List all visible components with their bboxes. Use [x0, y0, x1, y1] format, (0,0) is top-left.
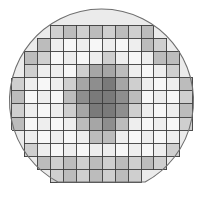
die-cell — [50, 38, 63, 51]
die-cell — [12, 91, 25, 104]
die-cell — [89, 117, 102, 130]
die-cell — [167, 104, 180, 117]
die-cell — [102, 64, 115, 77]
die-cell — [63, 143, 76, 156]
die-cell — [167, 64, 180, 77]
die-cell — [37, 51, 50, 64]
die-cell — [50, 104, 63, 117]
die-cell — [24, 51, 37, 64]
die-cell — [154, 51, 167, 64]
die-cell — [76, 64, 89, 77]
die-cell — [102, 157, 115, 170]
die-cell — [63, 91, 76, 104]
die-cell — [63, 78, 76, 91]
die-cell — [76, 130, 89, 143]
die-cell — [167, 117, 180, 130]
die-cell — [154, 117, 167, 130]
die-cell — [63, 38, 76, 51]
die-cell — [37, 130, 50, 143]
die-cell — [154, 78, 167, 91]
die-cell — [141, 157, 154, 170]
die-cell — [115, 104, 128, 117]
die-cell — [102, 130, 115, 143]
die-cell — [50, 157, 63, 170]
die-cell — [50, 117, 63, 130]
die-cell — [154, 91, 167, 104]
die-cell — [102, 170, 115, 183]
die-cell — [167, 130, 180, 143]
die-cell — [37, 117, 50, 130]
die-cell — [115, 91, 128, 104]
die-cell — [63, 130, 76, 143]
die-cell — [115, 38, 128, 51]
die-cell — [89, 91, 102, 104]
die-cell — [128, 91, 141, 104]
die-cell — [76, 157, 89, 170]
die-cell — [154, 130, 167, 143]
die-cell — [89, 78, 102, 91]
die-cell — [89, 104, 102, 117]
die-cell — [50, 25, 63, 38]
die-cell — [102, 104, 115, 117]
die-cell — [37, 38, 50, 51]
die-cell — [128, 25, 141, 38]
die-cell — [141, 143, 154, 156]
die-cell — [115, 117, 128, 130]
die-cell — [128, 157, 141, 170]
die-cell — [12, 104, 25, 117]
die-cell — [141, 51, 154, 64]
die-cell — [141, 104, 154, 117]
die-cell — [128, 78, 141, 91]
die-cell — [167, 78, 180, 91]
die-cell — [115, 25, 128, 38]
die-cell — [128, 64, 141, 77]
die-cell — [128, 51, 141, 64]
die-cell — [141, 91, 154, 104]
die-cell — [89, 25, 102, 38]
die-cell — [50, 64, 63, 77]
die-cell — [167, 51, 180, 64]
die-cell — [128, 143, 141, 156]
die-cell — [76, 25, 89, 38]
die-cell — [63, 104, 76, 117]
die-cell — [115, 130, 128, 143]
die-cell — [50, 143, 63, 156]
die-cell — [89, 143, 102, 156]
die-cell — [37, 64, 50, 77]
die-cell — [76, 38, 89, 51]
die-cell — [141, 25, 154, 38]
die-cell — [180, 91, 193, 104]
die-cell — [63, 157, 76, 170]
die-cell — [76, 117, 89, 130]
die-cell — [50, 78, 63, 91]
die-cell — [50, 51, 63, 64]
die-cell — [24, 130, 37, 143]
die-cell — [128, 38, 141, 51]
die-cell — [37, 143, 50, 156]
wafer-map-figure — [0, 0, 203, 207]
die-cell — [63, 25, 76, 38]
die-cell — [63, 51, 76, 64]
die-cell — [102, 91, 115, 104]
die-cell — [102, 51, 115, 64]
die-cell — [115, 64, 128, 77]
die-cell — [128, 170, 141, 183]
die-cell — [115, 51, 128, 64]
die-cell — [37, 91, 50, 104]
die-cell — [141, 38, 154, 51]
die-cell — [154, 104, 167, 117]
die-cell — [63, 117, 76, 130]
die-cell — [76, 78, 89, 91]
die-cell — [154, 143, 167, 156]
die-cell — [115, 143, 128, 156]
die-cell — [76, 104, 89, 117]
die-cell — [89, 51, 102, 64]
die-cell — [102, 38, 115, 51]
die-cell — [50, 91, 63, 104]
die-cell — [37, 104, 50, 117]
die-cell — [76, 91, 89, 104]
die-cell — [115, 157, 128, 170]
die-cell — [89, 64, 102, 77]
die-cell — [102, 25, 115, 38]
die-cell — [24, 117, 37, 130]
